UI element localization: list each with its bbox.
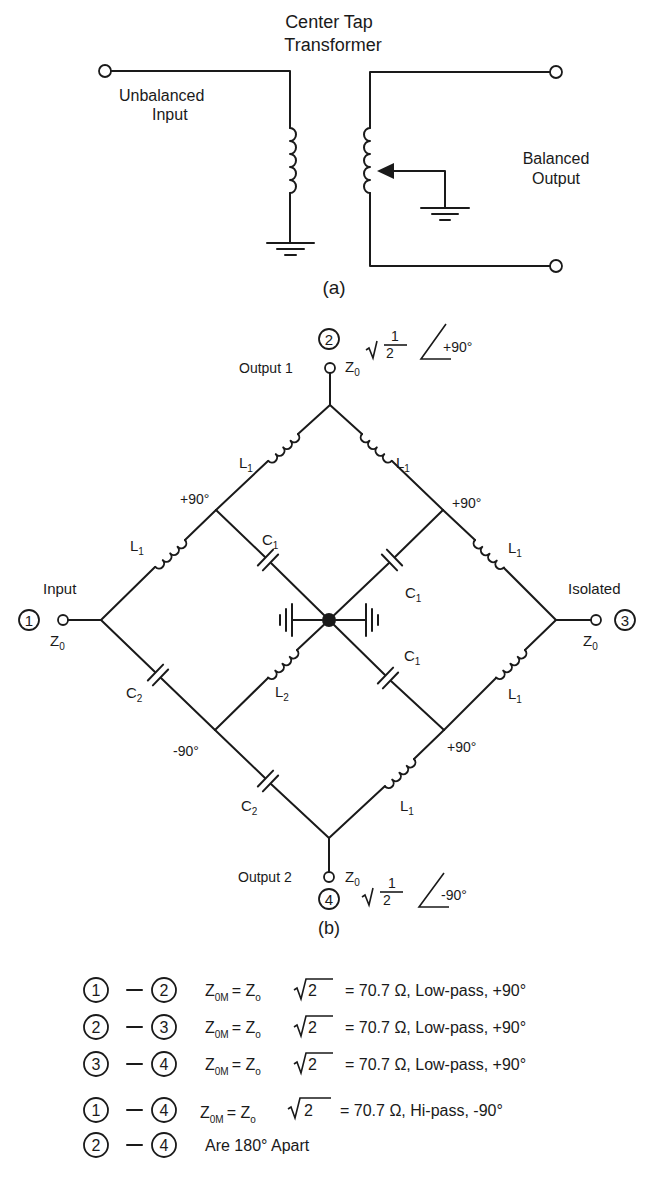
svg-text:2: 2 [160,982,169,999]
label-L1-right: L1 [508,539,522,559]
ground-icon [267,243,314,255]
figure-a-title-line2: Transformer [284,35,381,55]
svg-text:= 70.7 Ω, Hi-pass, -90°: = 70.7 Ω, Hi-pass, -90° [340,1102,503,1119]
capacitor-C1-upper-right-icon [329,510,443,620]
label-C2-left: C2 [126,684,143,704]
port-2-phase-angle-icon: +90° [421,324,472,359]
balanced-output-bottom-terminal-icon [550,260,562,272]
capacitor-C2-bottom-left-icon [215,730,329,838]
unbalanced-input-label-line1: Unbalanced [119,87,204,104]
svg-text:Are 180° Apart: Are 180° Apart [205,1137,310,1154]
svg-text:2: 2 [386,345,394,361]
label-L1-bottom-right: L1 [400,797,414,817]
secondary-coil-icon [364,128,370,193]
output-1-terminal-icon [325,363,335,373]
port-1-impedance: Z0 [50,632,65,652]
label-C2-bottom: C2 [241,797,258,817]
label-L1-left: L1 [130,537,144,557]
input-terminal-icon [99,65,111,77]
svg-text:= 70.7 Ω, Low-pass, +90°: = 70.7 Ω, Low-pass, +90° [345,982,526,999]
label-L1-lower-right: L1 [508,685,522,705]
svg-text:1: 1 [388,875,396,891]
inductor-L1-left-icon [101,510,216,620]
figure-a-title-line1: Center Tap [285,12,373,32]
svg-text:1: 1 [92,1102,101,1119]
inductor-L2-icon [215,620,329,730]
svg-text:1: 1 [391,328,399,344]
port-4-number: 4 [325,891,333,908]
legend-row: 1 2 Z0M= Zo 2 = 70.7 Ω, Low-pass, +90° [84,978,526,1003]
inductor-L1-right-icon [443,510,556,620]
svg-text:2: 2 [304,1102,313,1119]
phase-lower-left: -90° [173,743,199,759]
phase-lower-right: +90° [447,739,476,755]
center-junction-icon [322,613,336,627]
svg-text:4: 4 [160,1137,169,1154]
svg-text:-90°: -90° [441,887,467,903]
inductor-L1-top-left-icon [216,405,330,510]
svg-text:1: 1 [92,982,101,999]
figure-b-caption: (b) [318,918,340,938]
isolated-terminal-icon [591,615,601,625]
output-1-label: Output 1 [239,360,293,376]
balanced-output-label-line2: Output [532,170,581,187]
figure-a-center-tap-transformer: Center Tap Transformer Unbalanced Input … [99,12,589,298]
center-tap-arrow-icon [377,163,394,179]
primary-coil-icon [290,128,296,193]
svg-text:= 70.7 Ω, Low-pass, +90°: = 70.7 Ω, Low-pass, +90° [345,1056,526,1073]
center-ground-right-icon [336,604,378,636]
unbalanced-input-label-line2: Input [152,106,188,123]
legend-row: 2 4 Are 180° Apart [84,1133,310,1157]
capacitor-C2-left-icon [101,620,215,730]
balanced-output-top-terminal-icon [550,66,562,78]
port-2-impedance: Z0 [345,358,360,378]
inductor-L1-bottom-right-icon [329,730,444,838]
svg-text:2: 2 [92,1137,101,1154]
port-2-sqrt-half: 1 2 [366,328,407,361]
tap-ground-icon [421,208,469,220]
svg-text:+90°: +90° [443,339,472,355]
svg-text:= 70.7 Ω, Low-pass, +90°: = 70.7 Ω, Low-pass, +90° [345,1019,526,1036]
output-2-label: Output 2 [238,869,292,885]
input-label: Input [43,580,77,597]
figure-a-caption: (a) [322,277,345,298]
port-3-number: 3 [621,612,629,629]
legend-row: 3 4 Z0M= Zo 2 = 70.7 Ω, Low-pass, +90° [84,1052,526,1077]
label-C1-upper-left: C1 [262,531,279,551]
secondary-bottom-wire [370,193,551,266]
label-L1-top-left: L1 [239,454,253,474]
phase-upper-right: +90° [452,495,481,511]
svg-text:4: 4 [160,1056,169,1073]
svg-text:4: 4 [160,1102,169,1119]
figure-b-hybrid-network: 2 Output 1 Z0 1 2 +90° [19,324,635,938]
svg-text:Z0M= Zo: Z0M= Zo [205,1056,261,1077]
label-L2: L2 [275,683,289,703]
svg-text:2: 2 [308,1056,317,1073]
input-terminal-icon-b [58,615,68,625]
svg-text:2: 2 [383,892,391,908]
svg-text:3: 3 [92,1056,101,1073]
legend-row: 2 3 Z0M= Zo 2 = 70.7 Ω, Low-pass, +90° [84,1015,526,1040]
svg-text:Z0M= Zo: Z0M= Zo [200,1104,256,1125]
legend-row: 1 4 Z0M= Zo 2 = 70.7 Ω, Hi-pass, -90° [84,1098,503,1125]
balanced-output-label-line1: Balanced [523,150,590,167]
port-4-sqrt-half: 1 2 [362,875,403,908]
hybrid-coupler-figure: Center Tap Transformer Unbalanced Input … [0,0,672,1183]
svg-text:Z0M= Zo: Z0M= Zo [205,1019,261,1040]
port-2-number: 2 [325,331,333,348]
label-C1-upper-right: C1 [405,584,422,604]
inductor-L1-lower-right-icon [444,620,556,730]
svg-text:Z0M= Zo: Z0M= Zo [205,982,261,1003]
svg-text:2: 2 [308,982,317,999]
svg-text:2: 2 [308,1019,317,1036]
capacitor-C1-lower-right-icon [329,620,444,730]
port-4-impedance: Z0 [345,868,360,888]
capacitor-C1-upper-left-icon [216,510,329,620]
legend-table: 1 2 Z0M= Zo 2 = 70.7 Ω, Low-pass, +90° 2… [84,978,526,1157]
label-C1-lower-right: C1 [404,647,421,667]
svg-text:3: 3 [160,1019,169,1036]
isolated-label: Isolated [568,580,621,597]
secondary-top-wire [370,72,551,128]
output-2-terminal-icon [324,872,334,882]
inductor-L1-top-right-icon [330,405,443,510]
